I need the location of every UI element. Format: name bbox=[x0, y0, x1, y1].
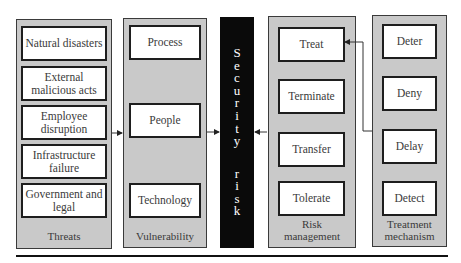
bottom-rule bbox=[16, 255, 448, 257]
arrow-treatment-to-treat bbox=[345, 42, 372, 131]
connector-arrows bbox=[0, 0, 461, 263]
